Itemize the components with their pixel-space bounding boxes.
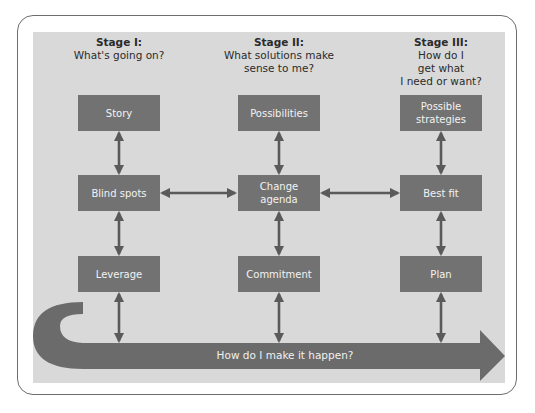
box-blind-spots-label: Blind spots [91,187,146,200]
box-blind-spots: Blind spots [78,175,160,211]
box-story-label: Story [106,107,132,120]
box-possible-strategies-line-2: strategies [416,113,466,126]
box-leverage: Leverage [78,256,160,292]
box-best-fit-label: Best fit [423,187,459,200]
box-commitment: Commitment [238,256,320,292]
box-plan-label: Plan [430,268,451,281]
bottom-arrow-label: How do I make it happen? [200,349,370,361]
box-possible-strategies-line-1: Possible [421,100,461,113]
box-leverage-label: Leverage [96,268,142,281]
box-plan: Plan [400,256,482,292]
box-possibilities-label: Possibilities [250,107,308,120]
box-change-agenda: Change agenda [238,175,320,211]
box-commitment-label: Commitment [246,268,311,281]
bottom-progress-arrow [33,302,505,381]
box-possibilities: Possibilities [238,95,320,131]
box-change-agenda-line-1: Change [260,180,298,193]
box-best-fit: Best fit [400,175,482,211]
box-possible-strategies: Possible strategies [400,95,482,131]
box-change-agenda-line-2: agenda [260,193,297,206]
box-story: Story [78,95,160,131]
